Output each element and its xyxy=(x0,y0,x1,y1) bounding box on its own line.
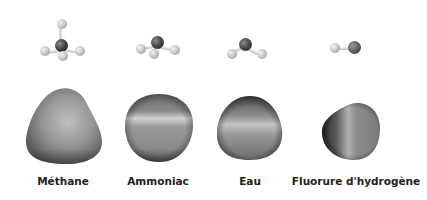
methane-label: Méthane xyxy=(37,175,89,187)
hydrogen-atom xyxy=(136,44,146,54)
hydrogen-fluoride-label: Fluorure d'hydrogène xyxy=(292,175,420,187)
ammonia-potential-surface xyxy=(121,92,197,164)
hydrogen-atom xyxy=(227,49,237,59)
hydrogen-atom xyxy=(257,49,267,59)
oxygen-atom xyxy=(239,38,252,51)
hydrogen-fluoride-model xyxy=(328,38,368,58)
water-potential-surface xyxy=(214,94,286,162)
hydrogen-atom xyxy=(40,46,50,56)
hydrogen-atom xyxy=(330,43,340,53)
hydrogen-fluoride-potential-surface xyxy=(320,100,382,162)
ammonia-model xyxy=(133,30,183,62)
methane-potential-surface xyxy=(22,86,106,166)
fluorine-atom xyxy=(348,41,361,54)
hydrogen-atom xyxy=(58,51,68,61)
molecular-potential-figure: Méthane Ammoniac Eau Fluorure d'hydrogèn… xyxy=(0,0,427,200)
ammonia-label: Ammoniac xyxy=(127,175,189,187)
nitrogen-atom xyxy=(151,36,164,49)
hydrogen-atom xyxy=(149,49,159,59)
hydrogen-atom xyxy=(75,46,85,56)
hydrogen-atom xyxy=(57,19,67,29)
hydrogen-atom xyxy=(170,45,180,55)
water-label: Eau xyxy=(239,175,261,187)
methane-model xyxy=(36,14,90,64)
water-model xyxy=(224,35,270,65)
